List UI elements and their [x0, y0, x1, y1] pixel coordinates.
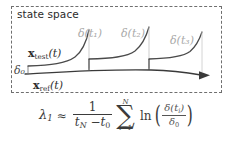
time-span-fraction: 1 tN −t0 — [73, 101, 113, 130]
ratio-numerator: δ(ti) — [162, 103, 186, 115]
ratio-denominator: δ0 — [167, 116, 181, 128]
x-test-label: xtest(t) — [28, 47, 61, 61]
fraction-numerator: 1 — [87, 101, 99, 114]
delta-0-subscript: 0 — [175, 121, 179, 129]
paren-close: ) — [187, 104, 193, 127]
sum-sigma-glyph: ∑ — [116, 105, 135, 126]
delta-t3-label: δ(t₃) — [170, 34, 194, 47]
x-ref-subscript: ref — [40, 84, 50, 93]
x-ref-argument: (t) — [50, 79, 63, 92]
x-test-subscript: test — [35, 52, 49, 61]
ratio-fraction: δ(ti) δ0 — [162, 103, 186, 129]
summation: N ∑ i=1 — [116, 99, 135, 132]
x-test-argument: (t) — [48, 47, 61, 60]
sum-lower-limit: i=1 — [119, 125, 132, 132]
t-N-subscript: N — [80, 121, 87, 130]
delta-t1-label: δ(t₁) — [78, 27, 102, 40]
lambda-subscript: 1 — [47, 114, 52, 124]
delta-t2-label: δ(t₂) — [121, 27, 145, 40]
t-0-subscript: 0 — [105, 121, 110, 130]
lyapunov-exponent-figure: state space δ(t₁) δ(t₂) δ(t₃) δ₀ — [0, 0, 234, 152]
reference-trajectory-arrowhead — [199, 71, 210, 79]
ln-operator: ln — [140, 109, 152, 123]
reference-trajectory — [25, 70, 210, 80]
fraction-denominator: tN −t0 — [73, 115, 113, 130]
minus-sign: − — [90, 115, 100, 129]
delta-0-label: δ₀ — [14, 64, 25, 77]
lambda-symbol: λ1 — [39, 107, 53, 123]
lyapunov-equation: λ1 ≈ 1 tN −t0 N ∑ i=1 ln ( δ(ti) δ0 ) — [0, 99, 234, 132]
delta-ti-close: ) — [180, 102, 184, 113]
x-ref-label: xref(t) — [33, 79, 63, 93]
approx-sign: ≈ — [57, 109, 67, 123]
paren-open: ( — [155, 104, 161, 127]
delta-ti-symbol: δ(t — [164, 102, 178, 113]
